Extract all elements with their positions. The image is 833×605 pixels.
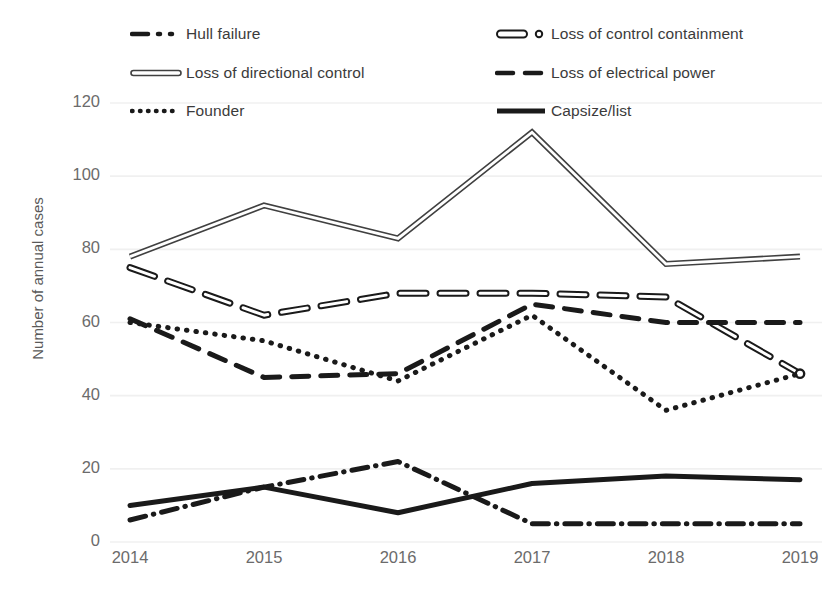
y-axis-tick-label: 100 bbox=[52, 165, 100, 184]
y-axis-tick-label: 80 bbox=[52, 238, 100, 257]
y-axis-tick-label: 120 bbox=[52, 92, 100, 111]
series-line-inner bbox=[130, 268, 800, 374]
y-axis-tick-label: 60 bbox=[52, 312, 100, 331]
series-loss-of-directional-control bbox=[130, 132, 800, 264]
x-axis-tick-label: 2017 bbox=[492, 548, 572, 567]
series-line-inner bbox=[130, 132, 800, 264]
x-axis-tick-label: 2016 bbox=[358, 548, 438, 567]
x-axis-tick-label: 2014 bbox=[90, 548, 170, 567]
x-axis-tick-label: 2018 bbox=[626, 548, 706, 567]
x-axis-tick-label: 2015 bbox=[224, 548, 304, 567]
y-axis-tick-label: 40 bbox=[52, 385, 100, 404]
plot-area bbox=[0, 0, 833, 605]
series-line-outer bbox=[130, 132, 800, 264]
chart-root: Hull failure Loss of control containment… bbox=[0, 0, 833, 605]
y-axis-tick-label: 20 bbox=[52, 458, 100, 477]
x-axis-tick-label: 2019 bbox=[760, 548, 833, 567]
series-line-outer bbox=[130, 268, 800, 374]
